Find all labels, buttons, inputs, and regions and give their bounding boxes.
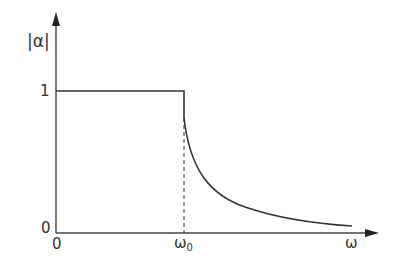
subscript-zero: 0 [187,242,193,253]
y-tick-0: 0 [41,221,51,236]
x-axis-arrow-icon [365,229,379,237]
x-axis-label: ω [345,236,358,251]
flat-segment [56,91,184,118]
y-axis-label: |α| [27,33,50,50]
omega-symbol: ω [174,234,187,252]
chart-canvas [0,0,398,266]
x-tick-omega0: ω0 [174,236,193,253]
y-axis-arrow-icon [52,12,60,26]
y-tick-1: 1 [40,84,50,99]
x-tick-0: 0 [52,237,62,252]
decay-curve [184,118,352,226]
